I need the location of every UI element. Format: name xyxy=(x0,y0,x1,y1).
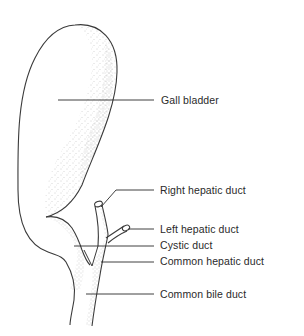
label-common-hepatic-duct: Common hepatic duct xyxy=(160,255,264,267)
gall-bladder-shape xyxy=(18,25,117,325)
label-gall-bladder: Gall bladder xyxy=(161,94,219,106)
common-duct-shape xyxy=(84,235,108,326)
gall-bladder-diagram xyxy=(0,0,304,336)
label-common-bile-duct: Common bile duct xyxy=(160,288,246,300)
label-left-hepatic-duct: Left hepatic duct xyxy=(160,223,239,235)
label-cystic-duct: Cystic duct xyxy=(160,239,212,251)
right-hepatic-duct-shape xyxy=(94,200,108,246)
left-hepatic-duct-shape xyxy=(106,224,131,243)
label-right-hepatic-duct: Right hepatic duct xyxy=(160,184,246,196)
leader-right-hepatic-duct xyxy=(101,190,154,207)
